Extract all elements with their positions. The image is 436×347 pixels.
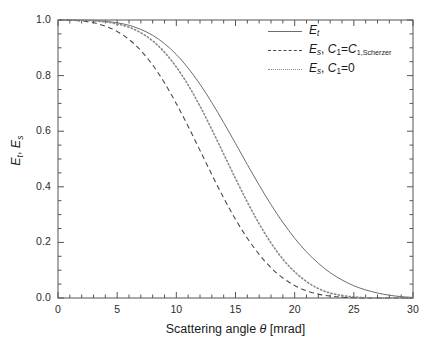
- y-tick-label: 0.8: [21, 69, 51, 81]
- legend-et-symbol: E: [309, 23, 317, 37]
- legend-c1scherzer-symbol: C: [348, 42, 357, 56]
- legend-es0-comma: ,: [321, 61, 328, 75]
- legend-item-es-zero[interactable]: Es, C1=0: [268, 60, 428, 79]
- legend-et-subscript: t: [317, 30, 319, 39]
- x-tick-label: 25: [339, 303, 369, 315]
- y-axis-title-separator: ,: [9, 148, 23, 155]
- y-axis-title-sub2: s: [15, 136, 25, 140]
- x-tick-label: 20: [280, 303, 310, 315]
- legend-es-comma: ,: [321, 42, 328, 56]
- x-tick-label: 5: [102, 303, 132, 315]
- y-tick-label: 1.0: [21, 13, 51, 25]
- y-tick-label: 0.0: [21, 291, 51, 303]
- legend-equals-sign: =: [341, 42, 348, 56]
- legend-label-es-zero: Es, C1=0: [309, 62, 355, 76]
- legend-label-es-scherzer: Es, C1=C1,Scherzer: [309, 43, 391, 57]
- legend-swatch-dotted-line-icon: [268, 65, 302, 75]
- x-tick-label: 15: [221, 303, 251, 315]
- legend-es-symbol: E: [309, 42, 317, 56]
- y-tick-label: 0.2: [21, 235, 51, 247]
- chart-legend: Et Es, C1=C1,Scherzer Es, C1=0: [268, 22, 428, 79]
- y-axis-title-e1: E: [9, 157, 23, 165]
- x-tick-label: 30: [398, 303, 428, 315]
- y-axis-title-e2: E: [9, 140, 23, 148]
- legend-es0-symbol: E: [309, 61, 317, 75]
- y-tick-label: 0.6: [21, 124, 51, 136]
- legend-swatch-solid-line-icon: [268, 27, 302, 37]
- x-axis-title: Scattering angle θ [mrad]: [58, 322, 413, 336]
- x-axis-title-suffix: [mrad]: [266, 322, 305, 336]
- y-axis-title: Et, Es: [9, 91, 24, 211]
- y-tick-label: 0.4: [21, 180, 51, 192]
- legend-item-et[interactable]: Et: [268, 22, 428, 41]
- legend-c1scherzer-subscript: 1,Scherzer: [357, 48, 392, 57]
- legend-swatch-dashed-line-icon: [268, 46, 302, 56]
- chart-figure: 0.00.20.40.60.81.0 051015202530 Scatteri…: [0, 0, 436, 347]
- legend-label-et: Et: [309, 24, 319, 38]
- x-axis-title-prefix: Scattering angle: [166, 322, 260, 336]
- legend-item-es-scherzer[interactable]: Es, C1=C1,Scherzer: [268, 41, 428, 60]
- x-tick-label: 10: [161, 303, 191, 315]
- x-tick-label: 0: [43, 303, 73, 315]
- y-axis-title-sub1: t: [15, 155, 25, 157]
- legend-c1-zero-value: =0: [341, 61, 355, 75]
